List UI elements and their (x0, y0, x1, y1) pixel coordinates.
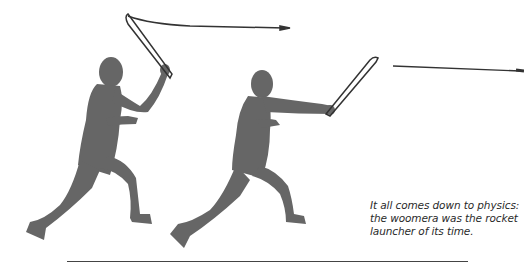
caption: It all comes down to physics: the woomer… (370, 199, 524, 238)
caption-line-2: the woomera was the rocket (370, 212, 524, 225)
caption-line-3: launcher of its time. (370, 225, 524, 238)
woomera-spear-left (126, 14, 290, 78)
figure-thrower-left (26, 57, 170, 240)
horizontal-rule (67, 261, 468, 262)
caption-line-1: It all comes down to physics: (370, 199, 524, 212)
figure-thrower-right (170, 70, 335, 248)
spear-flying (393, 66, 524, 71)
